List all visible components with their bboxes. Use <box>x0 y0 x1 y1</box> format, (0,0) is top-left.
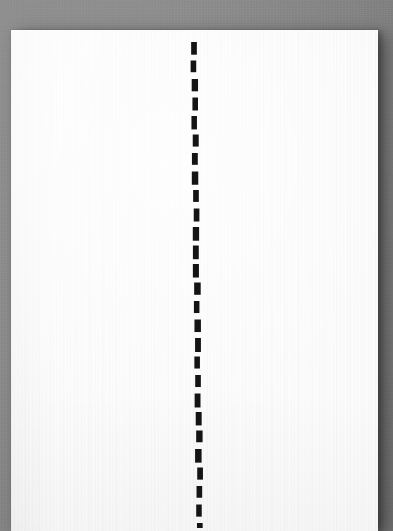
scene-canvas <box>0 0 393 531</box>
paper-light-shading <box>11 30 378 531</box>
paper-sheet <box>11 30 378 531</box>
paper-fibre-texture <box>11 30 378 531</box>
